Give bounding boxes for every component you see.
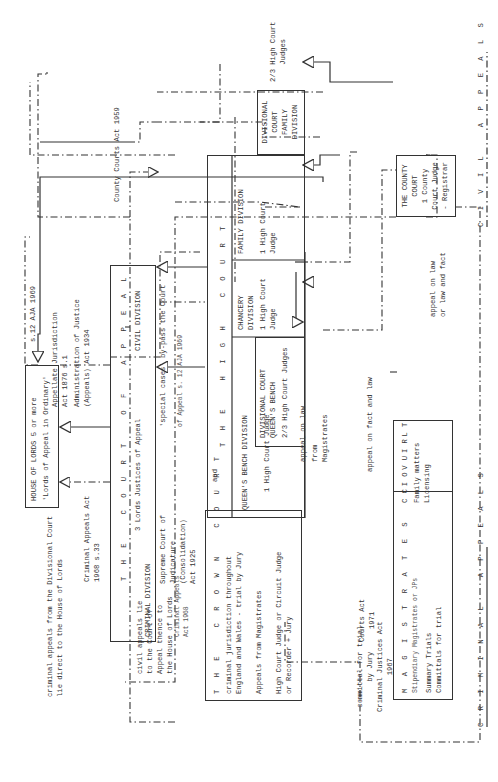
court-structure-diagram: HOUSE OF LORDS 5 or more 'Lords of Appea… — [0, 0, 498, 782]
qb-division-name: QUEEN'S BENCH DIVISION — [240, 415, 250, 510]
criminal-appeals-act-1968-label: Criminal Appeals Act 1968 — [173, 576, 191, 637]
admin-justice-label: Administration of Justice (Appeals) Act … — [72, 299, 92, 407]
criminal-appeals-act-s33-label: Criminal Appeals Act 1968 s.33 — [82, 496, 102, 582]
family-division-name: FAMILY DIVISION — [236, 189, 246, 254]
county-courts-act-label: County Courts Act 1959 — [112, 107, 122, 202]
magistrates-items: Summary Trials Committals for trial — [424, 607, 444, 693]
divisional-qb-judges: 2/3 High Court Judges — [280, 347, 290, 438]
family-division-judges: 1 High Court Judge — [258, 202, 278, 254]
appeal-fact-law-label: appeal on fact and law — [365, 377, 375, 472]
divisional-qb-name: DIVISIONAL COURT QUEEN'S BENCH — [258, 369, 278, 438]
civil-appeals-title: C I V I L A P P E A L S — [476, 19, 486, 227]
crown-court-box: T H E C R O W N C O U R T criminal juris… — [205, 510, 302, 701]
crown-court-title: T H E C R O W N C O U R T — [212, 453, 222, 694]
court-of-appeal-title: T H E C O U R T O F A P P E A L — [119, 273, 129, 581]
s12-aja-label: s.12 AJA 1969 — [28, 286, 38, 342]
committal-label: committal for trial by Jury Criminal Jus… — [355, 621, 395, 712]
court-of-appeal-box: T H E C O U R T O F A P P E A L 3 Lords … — [110, 265, 156, 642]
civil-appeals-lie-label: civil appeals lie to the Court of Appeal… — [135, 596, 175, 674]
supreme-court-act-label: Supreme Court of Judicature (Consolidati… — [158, 515, 198, 584]
appeal-law-or-fact-label: appeal on law or law and fact — [428, 252, 448, 317]
criminal-appeals-title: C R I M I N A L A P P E A L S — [476, 469, 486, 727]
chancery-division-judges: 1 High Court Judge — [258, 278, 278, 330]
magistrates-civil-items: Family matters Licensing — [412, 443, 432, 503]
divisional-family-judges: 2/3 High Court Judges — [268, 22, 288, 82]
magistrates-sub: Stipendiary Magistrates or JPs — [411, 578, 420, 693]
criminal-from-divisional-label: criminal appeals from the Divisional Cou… — [45, 516, 65, 697]
chancery-division-name: CHANCERY DIVISION — [236, 295, 256, 330]
of-appeal-s12-label: of Appeal s. 12 AJA 1969 — [176, 335, 185, 427]
appellate-jurisdiction-label: Appellate Jurisdiction Act 1876 s.1 — [50, 312, 70, 407]
and-label: and — [210, 469, 220, 482]
special-cases-label: 'special cases' by-pass the Court — [158, 285, 168, 427]
civil-division-label: CIVIL DIVISION — [133, 291, 143, 351]
county-court-text: THE COUNTY COURT 1 County Court Judge - … — [400, 157, 450, 215]
crown-court-desc: criminal jurisdiction throughout England… — [224, 552, 244, 694]
divisional-court-family-box: DIVISIONAL COURT FAMILY DIVISION — [257, 90, 305, 155]
house-of-lords-title: HOUSE OF LORDS 5 or more — [29, 397, 39, 501]
crown-court-judges: High Court Judge or Circuit Judge or Rec… — [274, 552, 294, 694]
magistrates-court-box: M A G I S T R A T E S C O U R T Stipendi… — [393, 420, 453, 700]
magistrates-divider — [393, 491, 453, 492]
county-court-box: THE COUNTY COURT 1 County Court Judge - … — [396, 155, 456, 217]
from-magistrates-label: from Magistrates — [310, 415, 330, 462]
crown-court-appeals: Appeals from Magistrates — [254, 590, 264, 694]
court-of-appeal-subtitle: 3 Lords Justices of Appeal — [133, 419, 143, 531]
high-court-title: T H E H I G H C O U R T — [218, 223, 228, 447]
divisional-family-name: DIVISIONAL COURT FAMILY DIVISION — [260, 92, 300, 152]
appeal-on-law-label: appeal on law — [298, 406, 308, 462]
